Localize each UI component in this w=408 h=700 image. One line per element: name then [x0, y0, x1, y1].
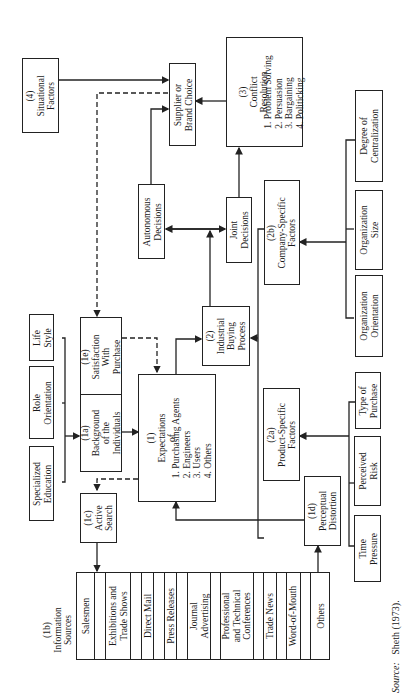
source-label: Source:: [390, 662, 401, 693]
industrial-buying-box: (2) Industrial Buying Process: [202, 306, 250, 366]
sheth-industrial-buyer-model: (4) Situational Factors Supplier or Bran…: [0, 0, 408, 700]
situational-factors-box: (4) Situational Factors: [22, 58, 59, 133]
information-source-label: Others: [316, 603, 327, 628]
information-source-spacer: [277, 573, 287, 659]
satisfaction-box: (1e) Satisfaction With Purchase: [80, 317, 122, 396]
perceptual-distortion-label: (1d) Perceptual Distortion: [307, 491, 339, 531]
life-style-box: Life Style: [29, 314, 54, 361]
company-specific-label: (2b) Company-Specific Factors: [266, 197, 298, 268]
type-of-purchase-box: Type of Purchase: [355, 372, 381, 429]
role-orientation-box: Role Orientation: [29, 366, 54, 439]
time-pressure-label: Time Pressure: [357, 532, 378, 564]
background-label: (1a) Background of the Individuals: [80, 410, 122, 456]
background-box: (1a) Background of the Individuals: [80, 394, 122, 472]
centralization-label: Degree of Centralization: [359, 109, 380, 163]
source-citation: Sheth (1973).: [390, 600, 401, 654]
autonomous-decisions-box: Autonomous Decisions: [138, 184, 165, 259]
joint-decisions-label: Joint Decisions: [229, 211, 250, 248]
life-style-label: Life Style: [31, 328, 52, 348]
information-sources-heading: (1b) Information Sources: [38, 585, 78, 675]
information-source-item: Journal Advertising: [188, 573, 211, 659]
conflict-resolution-box: (3) Conflict Resolution 1. Problem Solvi…: [226, 37, 303, 147]
product-specific-label: (2a) Product-Specific Factors: [266, 403, 298, 467]
information-source-item: Others: [311, 573, 331, 659]
information-source-item: Direct Mail: [142, 573, 154, 659]
active-search-box: (1c) Active Search: [80, 493, 117, 543]
expectations-box: (1) Expectations of 1. Purchasing Agents…: [138, 374, 216, 502]
information-sources-label: (1b) Information Sources: [42, 607, 74, 652]
perceived-risk-label: Perceived Risk: [357, 452, 378, 489]
organization-size-box: Organization Size: [355, 190, 383, 270]
organization-orientation-box: Organization Orientation: [355, 275, 383, 357]
information-source-spacer: [131, 573, 142, 659]
information-source-item: Professional and Technical Conferences: [221, 573, 253, 659]
conflict-resolution-items: 1. Problem Solving 2. Persuasion 3. Barg…: [263, 55, 305, 129]
information-sources-box: SalesmenExhibitions and Trade ShowsDirec…: [76, 572, 330, 660]
supplier-choice-label: Supplier or Brand Choice: [172, 78, 193, 131]
joint-decisions-box: Joint Decisions: [226, 197, 252, 263]
perceived-risk-box: Perceived Risk: [354, 436, 381, 506]
information-source-item: Salesmen: [77, 573, 95, 659]
information-source-spacer: [254, 573, 264, 659]
information-source-spacer: [177, 573, 188, 659]
information-source-spacer: [95, 573, 106, 659]
company-specific-box: (2b) Company-Specific Factors: [264, 180, 300, 285]
information-source-item: Trade News: [264, 573, 277, 659]
information-source-label: Salesmen: [80, 598, 91, 634]
information-source-label: Trade News: [264, 593, 275, 639]
supplier-choice-box: Supplier or Brand Choice: [169, 63, 196, 146]
perceptual-distortion-box: (1d) Perceptual Distortion: [304, 476, 341, 546]
time-pressure-box: Time Pressure: [354, 515, 381, 582]
specialized-education-box: Specialized Education: [29, 446, 54, 521]
type-of-purchase-label: Type of Purchase: [358, 383, 379, 417]
information-source-label: Press Releases: [166, 588, 177, 644]
source-caption: Source: Sheth (1973).: [390, 600, 401, 693]
active-search-label: (1c) Active Search: [83, 505, 115, 531]
information-source-label: Journal Advertising: [189, 594, 210, 639]
information-source-item: Exhibitions and Trade Shows: [106, 573, 131, 659]
information-source-label: Exhibitions and Trade Shows: [108, 586, 129, 646]
centralization-box: Degree of Centralization: [355, 90, 383, 182]
information-source-spacer: [154, 573, 165, 659]
information-source-label: Professional and Technical Conferences: [221, 590, 253, 643]
information-source-spacer: [301, 573, 311, 659]
organization-size-label: Organization Size: [359, 205, 380, 254]
information-source-item: Word-of-Mouth: [287, 573, 301, 659]
expectations-items: 1. Purchasing Agents 2. Engineers 3. Use…: [171, 398, 213, 478]
information-source-label: Word-of-Mouth: [288, 586, 299, 646]
organization-orientation-label: Organization Orientation: [359, 291, 380, 340]
information-source-label: Direct Mail: [142, 594, 153, 638]
industrial-buying-label: (2) Industrial Buying Process: [205, 318, 247, 354]
product-specific-box: (2a) Product-Specific Factors: [263, 388, 300, 481]
information-source-spacer: [211, 573, 221, 659]
specialized-education-label: Specialized Education: [31, 462, 52, 506]
situational-factors-label: (4) Situational Factors: [25, 75, 57, 116]
information-source-item: Press Releases: [165, 573, 177, 659]
autonomous-decisions-label: Autonomous Decisions: [141, 197, 162, 246]
role-orientation-label: Role Orientation: [31, 381, 52, 424]
satisfaction-label: (1e) Satisfaction With Purchase: [80, 334, 122, 379]
